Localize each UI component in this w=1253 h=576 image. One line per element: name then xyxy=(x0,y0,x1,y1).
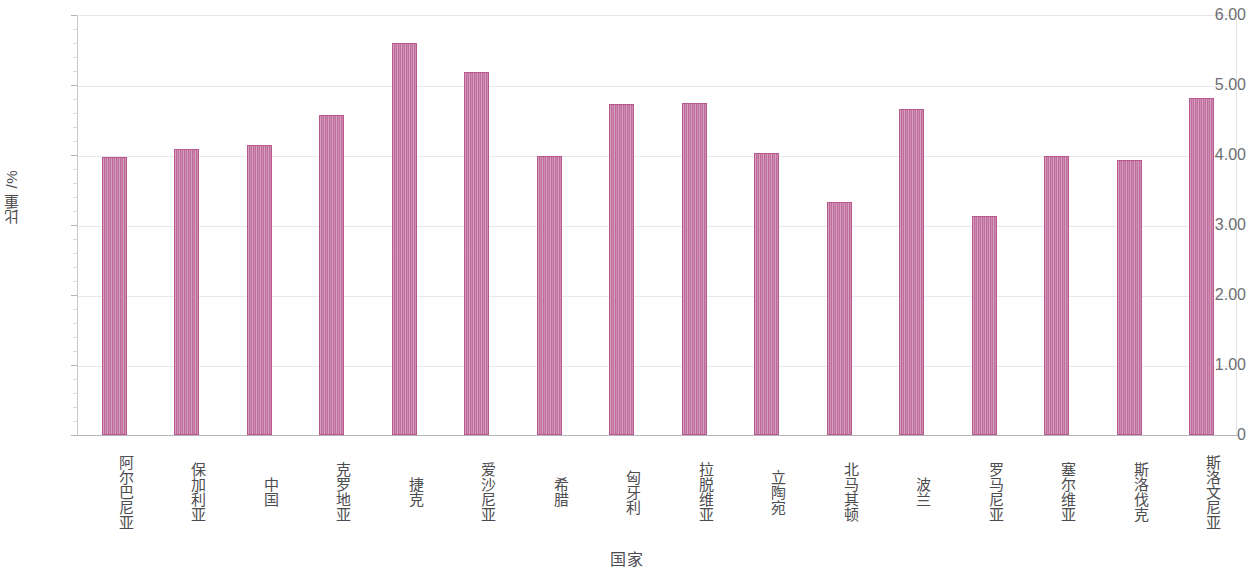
x-tick-label: 阿尔巴尼亚 xyxy=(93,444,133,540)
x-tick-label-text: 阿尔巴尼亚 xyxy=(116,444,133,540)
bar xyxy=(247,145,272,436)
x-tick-label: 拉脱维亚 xyxy=(673,444,713,540)
bar xyxy=(464,72,489,435)
bar xyxy=(827,202,852,435)
y-minor-tick xyxy=(73,29,77,30)
bar xyxy=(537,156,562,435)
x-tick-label: 斯洛伐克 xyxy=(1108,444,1148,540)
x-tick-label-text: 捷克 xyxy=(406,444,423,540)
bar xyxy=(754,153,779,435)
x-tick-label: 罗马尼亚 xyxy=(963,444,1003,540)
x-tick-label: 克罗地亚 xyxy=(311,444,351,540)
y-minor-tick xyxy=(73,71,77,72)
x-tick-label: 北马其顿 xyxy=(818,444,858,540)
bar xyxy=(972,216,997,435)
y-minor-tick xyxy=(73,127,77,128)
y-minor-tick xyxy=(73,393,77,394)
x-tick-label-text: 保加利亚 xyxy=(189,444,206,540)
x-tick-label-text: 斯洛文尼亚 xyxy=(1204,444,1221,540)
gridline xyxy=(78,86,1236,87)
x-tick-label: 保加利亚 xyxy=(166,444,206,540)
bar xyxy=(1044,156,1069,435)
x-tick-label: 塞尔维亚 xyxy=(1036,444,1076,540)
bar xyxy=(392,43,417,435)
plot-area xyxy=(77,15,1237,435)
y-minor-tick xyxy=(73,113,77,114)
y-tick-label: 4.00 xyxy=(1185,146,1253,164)
y-minor-tick xyxy=(73,43,77,44)
x-tick-label-text: 波兰 xyxy=(914,444,931,540)
x-tick-label: 斯洛文尼亚 xyxy=(1181,444,1221,540)
x-tick-label-text: 拉脱维亚 xyxy=(696,444,713,540)
y-axis-title: 比重 /% xyxy=(4,170,26,224)
x-tick-label: 爱沙尼亚 xyxy=(456,444,496,540)
x-tick-label-text: 匈牙利 xyxy=(624,444,641,540)
x-tick-label-text: 中国 xyxy=(261,444,278,540)
y-minor-tick xyxy=(73,281,77,282)
y-tick-label: 3.00 xyxy=(1185,216,1253,234)
x-tick-label-text: 克罗地亚 xyxy=(334,444,351,540)
x-tick-label: 波兰 xyxy=(891,444,931,540)
bar xyxy=(899,109,924,435)
y-minor-tick xyxy=(73,141,77,142)
y-tick-label: 6.00 xyxy=(1185,6,1253,24)
y-minor-tick xyxy=(73,267,77,268)
y-minor-tick xyxy=(73,309,77,310)
x-tick-label: 捷克 xyxy=(383,444,423,540)
x-tick-label-text: 北马其顿 xyxy=(841,444,858,540)
x-tick-label-text: 塞尔维亚 xyxy=(1059,444,1076,540)
y-minor-tick xyxy=(73,253,77,254)
x-tick-label-text: 爱沙尼亚 xyxy=(479,444,496,540)
bar xyxy=(174,149,199,435)
x-tick-label: 匈牙利 xyxy=(601,444,641,540)
y-minor-tick xyxy=(73,99,77,100)
y-tick-mark xyxy=(71,295,77,296)
y-tick-mark xyxy=(71,85,77,86)
x-tick-label: 立陶宛 xyxy=(746,444,786,540)
y-minor-tick xyxy=(73,183,77,184)
x-tick-label-text: 斯洛伐克 xyxy=(1131,444,1148,540)
y-minor-tick xyxy=(73,239,77,240)
y-minor-tick xyxy=(73,323,77,324)
y-tick-label: 2.00 xyxy=(1185,286,1253,304)
y-minor-tick xyxy=(73,421,77,422)
x-tick-label: 希腊 xyxy=(528,444,568,540)
x-axis-line xyxy=(77,435,1238,436)
x-axis-title: 国家 xyxy=(0,546,1253,570)
y-minor-tick xyxy=(73,57,77,58)
y-minor-tick xyxy=(73,407,77,408)
y-minor-tick xyxy=(73,379,77,380)
bar xyxy=(102,157,127,435)
x-tick-label-text: 罗马尼亚 xyxy=(986,444,1003,540)
bar xyxy=(609,104,634,435)
y-minor-tick xyxy=(73,351,77,352)
y-tick-label: 5.00 xyxy=(1185,76,1253,94)
y-tick-mark xyxy=(71,365,77,366)
y-tick-mark xyxy=(71,225,77,226)
y-tick-mark xyxy=(71,15,77,16)
y-minor-tick xyxy=(73,337,77,338)
bar-chart: 比重 /% 6.005.004.003.002.001.000 阿尔巴尼亚保加利… xyxy=(0,0,1253,576)
y-tick-mark xyxy=(71,155,77,156)
y-minor-tick xyxy=(73,211,77,212)
bar xyxy=(682,103,707,435)
y-minor-tick xyxy=(73,169,77,170)
bar xyxy=(1117,160,1142,435)
bar xyxy=(319,115,344,435)
y-tick-mark xyxy=(71,435,77,436)
y-minor-tick xyxy=(73,197,77,198)
y-tick-label: 0 xyxy=(1185,426,1253,444)
y-tick-label: 1.00 xyxy=(1185,356,1253,374)
x-tick-label-text: 希腊 xyxy=(551,444,568,540)
x-tick-label: 中国 xyxy=(238,444,278,540)
x-tick-label-text: 立陶宛 xyxy=(769,444,786,540)
